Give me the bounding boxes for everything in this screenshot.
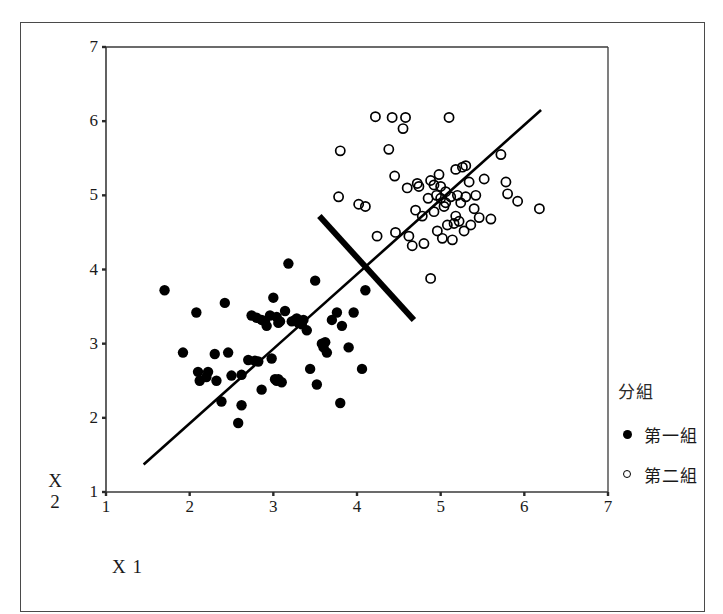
data-point-open: [501, 177, 510, 186]
data-point-filled: [360, 285, 370, 295]
y-axis-tick-label: 1: [82, 482, 98, 502]
data-point-open: [486, 214, 495, 223]
data-point-filled: [337, 321, 347, 331]
data-point-open: [471, 191, 480, 200]
y-axis-title-line1: X: [44, 470, 66, 491]
x-axis-tick-label: 4: [353, 497, 362, 517]
x-axis-tick-label: 5: [436, 497, 445, 517]
data-point-open: [388, 113, 397, 122]
y-axis-title-line2: 2: [44, 491, 66, 512]
data-point-open: [465, 177, 474, 186]
x-axis-tick-label: 6: [520, 497, 529, 517]
legend-item-group-2[interactable]: 第二組: [618, 465, 710, 483]
data-point-filled: [253, 356, 263, 366]
data-point-filled: [357, 364, 367, 374]
data-point-open: [401, 113, 410, 122]
y-axis-tick-label: 2: [82, 408, 98, 428]
data-point-filled: [203, 367, 213, 377]
filled-circle-icon: [618, 430, 636, 439]
data-point-open: [403, 183, 412, 192]
data-point-open: [470, 204, 479, 213]
legend: 分組 第一組 第二組: [618, 378, 710, 505]
legend-item-label-group-2: 第二組: [644, 462, 698, 487]
data-point-filled: [191, 307, 201, 317]
data-point-filled: [280, 306, 290, 316]
plot-axes-box: [106, 47, 608, 492]
data-point-filled: [233, 418, 243, 428]
data-point-filled: [271, 312, 281, 322]
data-point-open: [503, 189, 512, 198]
data-point-open: [426, 274, 435, 283]
data-point-open: [496, 150, 505, 159]
scatter-plot-canvas: [0, 0, 723, 614]
data-point-filled: [292, 313, 302, 323]
data-point-open: [372, 232, 381, 241]
data-point-filled: [256, 384, 266, 394]
data-point-filled: [320, 337, 330, 347]
data-point-filled: [273, 374, 283, 384]
data-point-filled: [210, 349, 220, 359]
data-point-open: [480, 174, 489, 183]
data-point-open: [414, 182, 423, 191]
data-point-filled: [305, 364, 315, 374]
data-point-open: [336, 146, 345, 155]
y-axis-tick-label: 7: [82, 37, 98, 57]
data-point-filled: [348, 307, 358, 317]
data-point-open: [438, 234, 447, 243]
data-point-filled: [220, 298, 230, 308]
x-axis-tick-label: 3: [269, 497, 278, 517]
legend-item-label-group-1: 第一組: [644, 422, 698, 447]
y-axis-title: X 2: [44, 470, 66, 512]
data-point-open: [429, 207, 438, 216]
data-point-filled: [335, 398, 345, 408]
data-point-filled: [302, 325, 312, 335]
data-point-open: [391, 228, 400, 237]
data-point-filled: [322, 347, 332, 357]
data-point-open: [390, 171, 399, 180]
legend-item-group-1[interactable]: 第一組: [618, 425, 710, 443]
data-point-open: [334, 192, 343, 201]
data-point-filled: [310, 275, 320, 285]
x-axis-tick-label: 7: [604, 497, 613, 517]
open-circle-icon: [618, 470, 636, 478]
data-point-filled: [312, 379, 322, 389]
series-points-group-2: [334, 112, 544, 283]
data-point-open: [404, 232, 413, 241]
y-axis-tick-label: 4: [82, 260, 98, 280]
data-point-open: [411, 206, 420, 215]
discriminant-axis-line: [144, 110, 541, 465]
data-point-open: [513, 197, 522, 206]
data-point-filled: [178, 347, 188, 357]
annotation-lines: [144, 110, 541, 465]
data-point-filled: [268, 292, 278, 302]
data-point-open: [475, 213, 484, 222]
data-point-open: [444, 113, 453, 122]
data-point-filled: [236, 370, 246, 380]
data-point-open: [434, 170, 443, 179]
data-point-filled: [256, 315, 266, 325]
data-point-open: [384, 145, 393, 154]
data-point-filled: [211, 376, 221, 386]
data-point-filled: [216, 396, 226, 406]
data-point-open: [448, 235, 457, 244]
data-point-open: [419, 239, 428, 248]
data-point-open: [466, 220, 475, 229]
data-point-filled: [236, 400, 246, 410]
data-point-open: [535, 204, 544, 213]
data-point-filled: [343, 342, 353, 352]
data-point-filled: [159, 285, 169, 295]
x-axis-tick-label: 2: [185, 497, 194, 517]
data-point-open: [398, 124, 407, 133]
x-axis-tick-label: 1: [102, 497, 111, 517]
y-axis-tick-label: 5: [82, 185, 98, 205]
y-axis-tick-label: 3: [82, 334, 98, 354]
data-point-open: [408, 241, 417, 250]
series-points-group-1: [159, 258, 370, 428]
figure-page: 1234567 1234567 X 2 X 1 分組 第一組 第二組: [0, 0, 723, 614]
data-point-filled: [226, 370, 236, 380]
data-point-open: [371, 112, 380, 121]
data-point-filled: [266, 353, 276, 363]
legend-title: 分組: [618, 378, 710, 403]
data-point-filled: [223, 347, 233, 357]
data-point-filled: [283, 258, 293, 268]
